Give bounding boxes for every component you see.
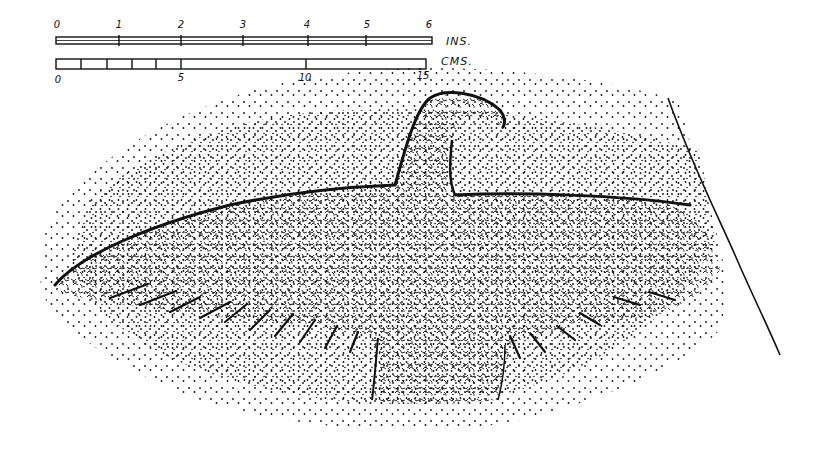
bird-petroglyph-drawing (0, 0, 816, 461)
scale-bar-cms (56, 59, 426, 69)
inch-tick-4: 4 (304, 19, 310, 30)
cm-tick-15: 15 (417, 70, 430, 81)
inch-tick-5: 5 (364, 19, 370, 30)
petroglyph-figure: 0 1 2 3 4 5 6 INS. 0 5 10 15 CMS. (0, 0, 816, 461)
cm-tick-10: 10 (299, 72, 312, 83)
inch-tick-6: 6 (426, 19, 432, 30)
inch-unit-label: INS. (446, 35, 472, 48)
cm-tick-5: 5 (178, 72, 184, 83)
inch-tick-3: 3 (240, 19, 246, 30)
inch-tick-1: 1 (116, 19, 122, 30)
inch-tick-2: 2 (178, 19, 184, 30)
cm-tick-0: 0 (55, 74, 61, 85)
inch-tick-0: 0 (54, 19, 60, 30)
scale-bar-inches (56, 35, 432, 46)
cm-unit-label: CMS. (441, 55, 473, 68)
